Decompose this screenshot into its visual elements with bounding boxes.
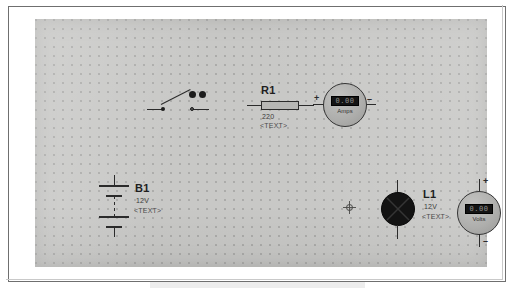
lamp-symbol[interactable]: L1 12V <TEXT> [375,179,451,241]
switch-terminal-dot-b [199,91,206,98]
voltmeter-lead-bottom [479,234,480,247]
battery-cell-separator [114,196,115,216]
resistor-lead-left [247,105,262,106]
voltmeter-minus-terminal-label: – [483,237,488,246]
ammeter-minus-terminal-label: – [367,95,372,104]
lamp-filament-cross-icon [381,192,415,226]
battery-symbol[interactable]: B1 12V <TEXT> [93,175,171,237]
battery-lead-bottom [114,226,115,237]
resistor-value-label: 220 [262,113,274,120]
battery-reference-label: B1 [135,183,149,194]
switch-terminal-dot-a [189,91,196,98]
battery-plate-long-1 [99,185,129,187]
resistor-symbol[interactable]: R1 220 <TEXT> [247,83,315,129]
resistor-text-label: <TEXT> [260,122,287,129]
lamp-text-label: <TEXT> [422,213,449,220]
page-frame: R1 220 <TEXT> + – 0.00 Amps [8,6,506,282]
voltmeter-display-value: 0.00 [470,206,489,213]
ammeter-body[interactable]: 0.00 Amps [323,83,367,127]
battery-value-label: 12V [136,197,149,204]
voltmeter-display: 0.00 [465,204,493,215]
switch-symbol[interactable] [147,89,213,117]
resistor-reference-label: R1 [261,85,275,96]
resistor-body[interactable] [261,101,299,110]
voltmeter-unit-label: Volts [472,216,485,222]
lamp-lead-bottom [397,225,398,239]
voltmeter-body[interactable]: 0.00 Volts [457,191,501,235]
switch-pivot-node [161,107,165,111]
caption-strip [150,282,365,288]
voltmeter-symbol[interactable]: + 0.00 Volts – [455,177,505,249]
crosshair-cursor-icon [343,201,356,214]
ammeter-display: 0.00 [331,96,359,107]
ammeter-plus-terminal-label: + [314,94,319,103]
lamp-reference-label: L1 [423,189,436,200]
voltmeter-plus-terminal-label: + [483,177,488,186]
ammeter-symbol[interactable]: + – 0.00 Amps [313,81,375,131]
battery-text-label: <TEXT> [134,207,161,214]
resistor-lead-right [298,105,314,106]
schematic-canvas[interactable]: R1 220 <TEXT> + – 0.00 Amps [35,19,487,267]
switch-blade[interactable] [161,96,191,111]
switch-throw-node [190,107,194,111]
lamp-value-label: 12V [424,203,437,210]
ammeter-unit-label: Amps [337,108,352,114]
ammeter-display-value: 0.00 [336,98,355,105]
battery-plate-long-2 [99,216,129,218]
